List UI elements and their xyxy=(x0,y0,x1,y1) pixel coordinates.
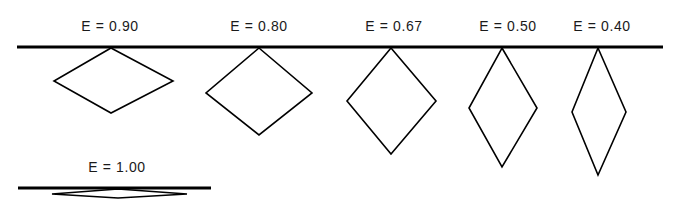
label-e-0-50: E = 0.50 xyxy=(479,19,536,33)
rhombus-e-1-00 xyxy=(52,189,187,198)
rhombus-e-0-67 xyxy=(347,48,436,154)
label-e-0-80: E = 0.80 xyxy=(230,19,287,33)
rhombus-e-0-50 xyxy=(469,48,537,167)
label-e-0-67: E = 0.67 xyxy=(365,19,422,33)
rhombus-e-0-80 xyxy=(206,48,312,135)
label-e-1-00: E = 1.00 xyxy=(88,160,145,174)
label-e-0-90: E = 0.90 xyxy=(81,19,138,33)
label-e-0-40: E = 0.40 xyxy=(573,19,630,33)
rhombus-e-0-90 xyxy=(54,48,173,113)
rhombus-e-0-40 xyxy=(572,48,626,175)
